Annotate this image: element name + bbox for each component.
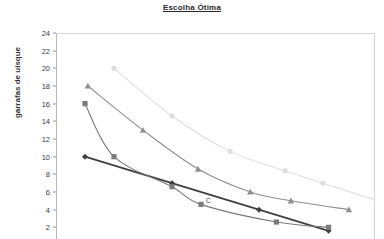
series-3 [85, 83, 353, 213]
data-point-marker [375, 198, 380, 203]
data-point-marker [195, 166, 202, 172]
data-point-marker [82, 101, 87, 106]
series-line [114, 68, 378, 201]
data-point-marker [198, 202, 203, 207]
data-point-marker [283, 168, 288, 173]
data-point-marker [82, 154, 88, 160]
chart-container: Escolha Ótima garrafas de uísque 2468101… [0, 0, 384, 239]
data-point-marker [169, 113, 174, 118]
data-point-marker [85, 83, 92, 89]
series-line [88, 86, 349, 210]
data-point-marker [274, 219, 279, 224]
series-line [85, 157, 329, 231]
series-1 [82, 154, 332, 234]
data-point-marker [326, 225, 331, 230]
series-line [85, 104, 329, 228]
data-point-marker [111, 154, 116, 159]
data-point-marker [256, 207, 262, 213]
series-layer [0, 0, 384, 239]
series-4 [111, 66, 380, 204]
data-point-marker [227, 149, 232, 154]
series-2 [82, 101, 331, 230]
data-point-marker [169, 184, 174, 189]
data-point-marker [320, 181, 325, 186]
point-annotation-label: C [206, 197, 211, 204]
data-point-marker [111, 66, 116, 71]
